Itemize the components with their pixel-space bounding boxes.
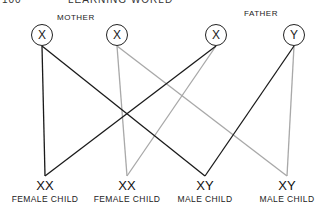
inheritance-line <box>42 46 45 176</box>
inheritance-line <box>117 46 127 176</box>
inheritance-line <box>287 46 294 176</box>
mother-label: MOTHER <box>57 13 95 22</box>
chromosome-symbol: Y <box>290 28 298 42</box>
inheritance-diagram: 100 LEARNING WORLD MOTHER FATHER X X X Y… <box>0 0 322 213</box>
inheritance-line <box>205 46 294 176</box>
child-1-label: FEMALE CHILD <box>0 194 90 204</box>
chromosome-symbol: X <box>212 28 220 42</box>
inheritance-line <box>45 46 216 176</box>
inheritance-line <box>42 46 205 176</box>
father-label: FATHER <box>244 9 278 18</box>
mother-chromosome-x-1: X <box>31 24 53 46</box>
chromosome-symbol: X <box>38 28 46 42</box>
mother-chromosome-x-2: X <box>106 24 128 46</box>
child-4-label: MALE CHILD <box>242 194 322 204</box>
child-1-genotype: XX <box>25 178 65 193</box>
child-4-genotype: XY <box>267 178 307 193</box>
father-chromosome-y: Y <box>283 24 305 46</box>
child-2-genotype: XX <box>107 178 147 193</box>
child-3-genotype: XY <box>185 178 225 193</box>
chromosome-symbol: X <box>113 28 121 42</box>
child-3-label: MALE CHILD <box>160 194 250 204</box>
father-chromosome-x: X <box>205 24 227 46</box>
child-2-label: FEMALE CHILD <box>82 194 172 204</box>
